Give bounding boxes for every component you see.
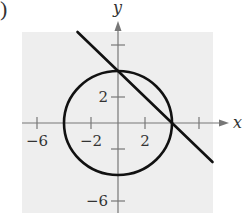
- x-axis-label: x: [233, 113, 242, 132]
- y-axis-arrow-icon: [115, 21, 122, 31]
- x-axis-arrow-icon: [219, 120, 229, 127]
- x-tick-label: −2: [80, 132, 102, 150]
- y-tick-label: −6: [86, 192, 108, 210]
- x-tick-label: 2: [140, 132, 150, 150]
- x-tick-label: −6: [26, 132, 48, 150]
- y-axis-label: y: [112, 0, 123, 17]
- chart: −6−222−6 x y: [0, 0, 243, 216]
- y-tick-label: 2: [98, 88, 108, 106]
